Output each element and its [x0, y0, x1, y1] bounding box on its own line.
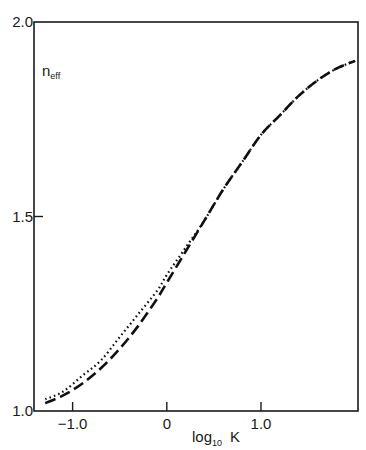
y-ticks: 1.01.52.0	[12, 13, 43, 419]
x-axis-label: log10K	[192, 428, 240, 448]
chart: −1.001.0 1.01.52.0 neff log10K	[0, 0, 366, 450]
x-axis-label-sub: 10	[212, 438, 222, 448]
y-tick-label: 1.0	[12, 402, 33, 419]
plot-frame	[34, 22, 358, 411]
x-axis-label-main: log	[192, 428, 212, 445]
y-tick-label: 1.5	[12, 208, 33, 225]
x-tick-label: 0	[163, 415, 171, 432]
y-axis-label-main: n	[42, 62, 50, 79]
x-axis-label-suffix: K	[230, 428, 240, 445]
x-tick-label: −1.0	[58, 415, 88, 432]
x-tick-label: 1.0	[251, 415, 272, 432]
series-line-dotted	[45, 61, 355, 399]
y-tick-label: 2.0	[12, 13, 33, 30]
series-line-dashed	[45, 61, 355, 403]
y-axis-label: neff	[42, 62, 61, 81]
y-axis-label-sub: eff	[50, 71, 60, 81]
series-group	[45, 61, 355, 403]
